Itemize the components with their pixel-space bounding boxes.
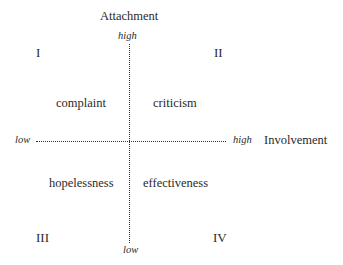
- vertical-axis-title: Attachment: [100, 10, 158, 23]
- quadrant-term-criticism: criticism: [153, 97, 197, 110]
- horizontal-axis-high-label: high: [233, 135, 252, 146]
- quadrant-numeral-4: IV: [213, 231, 227, 244]
- quadrant-term-complaint: complaint: [56, 97, 106, 110]
- quadrant-numeral-3: III: [36, 231, 49, 244]
- horizontal-axis-line: [36, 141, 226, 142]
- quadrant-numeral-1: I: [36, 46, 40, 59]
- vertical-axis-line: [129, 44, 130, 243]
- horizontal-axis-low-label: low: [15, 135, 30, 146]
- vertical-axis-low-label: low: [123, 245, 138, 256]
- horizontal-axis-title: Involvement: [264, 134, 327, 147]
- vertical-axis-high-label: high: [118, 31, 137, 42]
- quadrant-numeral-2: II: [214, 46, 223, 59]
- quadrant-term-effectiveness: effectiveness: [143, 177, 208, 190]
- quadrant-term-hopelessness: hopelessness: [49, 177, 114, 190]
